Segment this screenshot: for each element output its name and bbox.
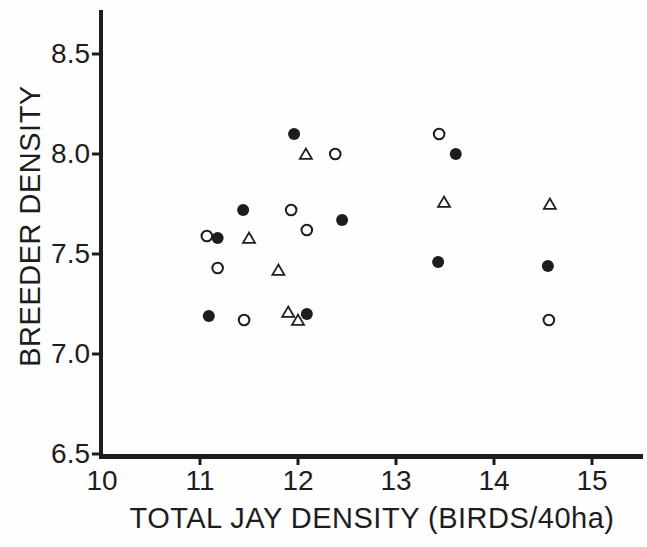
y-tick-mark — [92, 453, 101, 456]
y-tick-mark — [92, 53, 101, 56]
x-tick-label: 15 — [560, 466, 624, 496]
marker-open-circle — [202, 231, 213, 242]
marker-open-triangle — [544, 199, 556, 209]
scatter-figure: BREEDER DENSITY TOTAL JAY DENSITY (BIRDS… — [0, 0, 647, 547]
marker-open-circle — [434, 129, 445, 140]
marker-filled-circle — [203, 310, 215, 322]
marker-open-circle — [239, 315, 250, 326]
marker-open-circle — [286, 205, 297, 216]
y-tick-mark — [92, 153, 101, 156]
y-tick-label: 8.0 — [28, 138, 90, 170]
marker-open-triangle — [282, 307, 294, 317]
marker-open-triangle — [438, 197, 450, 207]
x-tick-mark — [199, 458, 202, 465]
marker-filled-circle — [237, 204, 249, 216]
marker-filled-circle — [336, 214, 348, 226]
y-axis-title: BREEDER DENSITY — [14, 74, 46, 378]
marker-filled-circle — [301, 308, 313, 320]
x-axis-title: TOTAL JAY DENSITY (BIRDS/40ha) — [101, 502, 643, 535]
marker-open-triangle — [300, 149, 312, 159]
x-axis-line — [99, 454, 643, 459]
x-tick-mark — [297, 458, 300, 465]
x-tick-mark — [395, 458, 398, 465]
marker-open-circle — [544, 315, 555, 326]
marker-open-circle — [330, 149, 341, 160]
marker-open-triangle — [243, 233, 255, 243]
x-tick-label: 10 — [70, 466, 134, 496]
marker-filled-circle — [450, 148, 462, 160]
y-axis-line — [99, 10, 103, 459]
x-tick-label: 13 — [364, 466, 428, 496]
y-tick-label: 7.5 — [28, 238, 90, 270]
marker-filled-circle — [288, 128, 300, 140]
marker-open-circle — [302, 225, 313, 236]
marker-filled-circle — [432, 256, 444, 268]
x-tick-label: 12 — [266, 466, 330, 496]
x-tick-mark — [591, 458, 594, 465]
marker-open-circle — [212, 263, 223, 274]
y-tick-mark — [92, 253, 101, 256]
x-tick-mark — [493, 458, 496, 465]
marker-filled-circle — [542, 260, 554, 272]
y-tick-label: 7.0 — [28, 338, 90, 370]
marker-filled-circle — [212, 232, 224, 244]
x-tick-label: 11 — [168, 466, 232, 496]
marker-open-triangle — [272, 265, 284, 275]
y-tick-mark — [92, 353, 101, 356]
y-tick-label: 8.5 — [28, 38, 90, 70]
x-tick-label: 14 — [462, 466, 526, 496]
